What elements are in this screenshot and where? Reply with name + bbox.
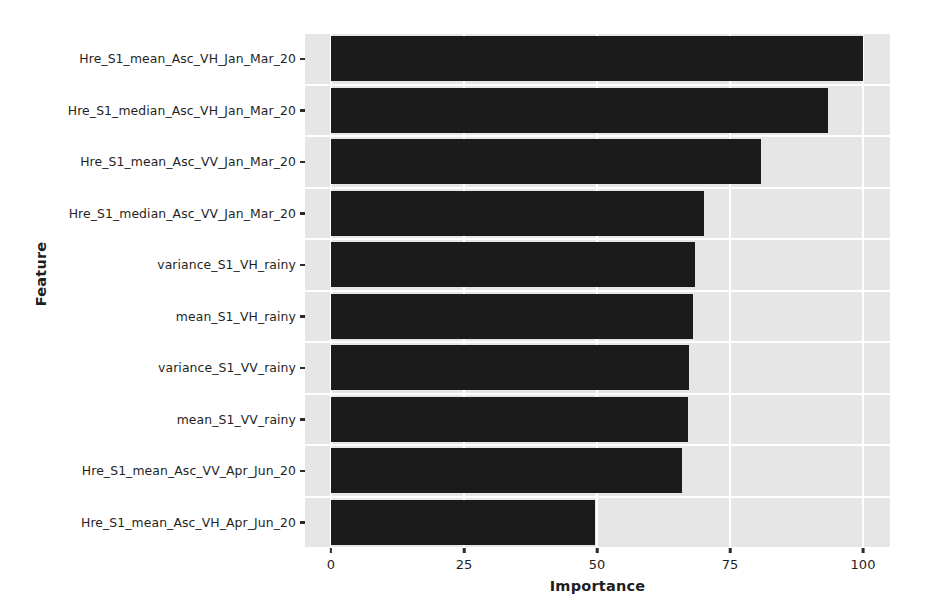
feature-importance-chart: Feature Hre_S1_mean_Asc_VH_Jan_Mar_20Hre… bbox=[0, 0, 931, 609]
y-tick-mark bbox=[300, 315, 305, 318]
x-tick: 0 bbox=[327, 548, 335, 572]
bar bbox=[331, 397, 688, 442]
x-axis-ticks: 0255075100 bbox=[305, 548, 890, 582]
bar bbox=[331, 242, 695, 287]
y-tick-label: mean_S1_VH_rainy bbox=[176, 309, 296, 324]
x-tick-mark bbox=[463, 548, 466, 553]
x-tick-label: 25 bbox=[456, 557, 473, 572]
x-tick-label: 50 bbox=[589, 557, 606, 572]
x-tick-mark bbox=[596, 548, 599, 553]
y-tick-mark bbox=[300, 264, 305, 267]
bar bbox=[331, 88, 828, 133]
y-tick: Hre_S1_mean_Asc_VH_Jan_Mar_20 bbox=[79, 50, 305, 68]
y-tick: Hre_S1_median_Asc_VH_Jan_Mar_20 bbox=[68, 101, 305, 119]
y-tick-mark bbox=[300, 367, 305, 370]
y-tick-label: mean_S1_VV_rainy bbox=[177, 412, 296, 427]
y-tick-mark bbox=[300, 109, 305, 112]
y-tick-label: Hre_S1_mean_Asc_VH_Jan_Mar_20 bbox=[79, 51, 296, 66]
x-tick-label: 0 bbox=[327, 557, 335, 572]
y-tick: variance_S1_VH_rainy bbox=[157, 256, 305, 274]
bar bbox=[331, 191, 704, 236]
y-tick-mark bbox=[300, 521, 305, 524]
x-tick-mark bbox=[729, 548, 732, 553]
y-tick-label: Hre_S1_median_Asc_VH_Jan_Mar_20 bbox=[68, 103, 296, 118]
bar bbox=[331, 36, 863, 81]
y-tick-mark bbox=[300, 418, 305, 421]
bar-series bbox=[305, 33, 890, 548]
x-tick-mark bbox=[330, 548, 333, 553]
y-tick-mark bbox=[300, 58, 305, 61]
x-tick-mark bbox=[862, 548, 865, 553]
y-tick-mark bbox=[300, 212, 305, 215]
x-tick: 25 bbox=[456, 548, 473, 572]
x-tick: 100 bbox=[851, 548, 876, 572]
bar bbox=[331, 139, 761, 184]
y-tick-mark bbox=[300, 161, 305, 164]
y-tick: mean_S1_VH_rainy bbox=[176, 307, 305, 325]
y-tick-label: variance_S1_VV_rainy bbox=[158, 360, 296, 375]
y-tick: Hre_S1_mean_Asc_VH_Apr_Jun_20 bbox=[81, 513, 305, 531]
y-tick-label: Hre_S1_mean_Asc_VH_Apr_Jun_20 bbox=[81, 515, 296, 530]
bar bbox=[331, 294, 693, 339]
bar bbox=[331, 500, 595, 545]
y-tick: Hre_S1_mean_Asc_VV_Jan_Mar_20 bbox=[80, 153, 305, 171]
y-tick: variance_S1_VV_rainy bbox=[158, 359, 305, 377]
y-tick: mean_S1_VV_rainy bbox=[177, 410, 305, 428]
y-tick-label: variance_S1_VH_rainy bbox=[157, 257, 296, 272]
y-tick-label: Hre_S1_mean_Asc_VV_Jan_Mar_20 bbox=[80, 154, 296, 169]
y-tick: Hre_S1_median_Asc_VV_Jan_Mar_20 bbox=[69, 204, 305, 222]
y-axis-ticks: Hre_S1_mean_Asc_VH_Jan_Mar_20Hre_S1_medi… bbox=[0, 33, 305, 548]
bar bbox=[331, 345, 689, 390]
x-tick-label: 100 bbox=[851, 557, 876, 572]
x-tick: 50 bbox=[589, 548, 606, 572]
bar bbox=[331, 448, 682, 493]
x-tick-label: 75 bbox=[722, 557, 739, 572]
y-tick-label: Hre_S1_median_Asc_VV_Jan_Mar_20 bbox=[69, 206, 296, 221]
y-tick-label: Hre_S1_mean_Asc_VV_Apr_Jun_20 bbox=[82, 463, 296, 478]
x-tick: 75 bbox=[722, 548, 739, 572]
x-axis-title: Importance bbox=[305, 578, 890, 594]
y-tick-mark bbox=[300, 470, 305, 473]
y-tick: Hre_S1_mean_Asc_VV_Apr_Jun_20 bbox=[82, 462, 305, 480]
plot-area bbox=[305, 33, 890, 548]
